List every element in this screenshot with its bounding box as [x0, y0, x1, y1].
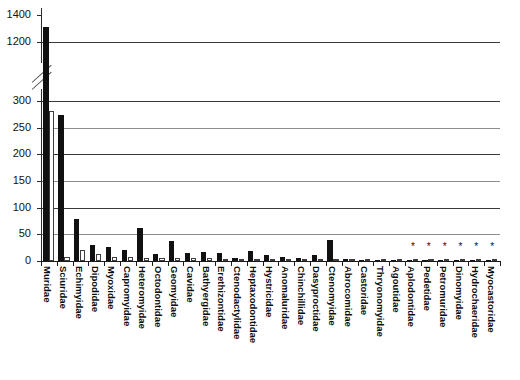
bar-group — [215, 0, 231, 262]
bar-group — [120, 0, 136, 262]
x-axis-category-label: Heteromyidae — [138, 266, 148, 329]
bar-open — [207, 258, 212, 261]
bar-filled — [422, 260, 427, 261]
x-axis-category-label: Heptaxodontidae — [249, 266, 259, 343]
bar-group — [263, 0, 279, 262]
bar-filled — [280, 257, 285, 261]
x-axis-category-label: Erethizontidae — [217, 266, 227, 331]
x-axis-category-label: Chinchillidae — [296, 266, 306, 325]
bar-filled — [312, 255, 317, 261]
x-axis-category-label: Ctenomyidae — [328, 266, 338, 326]
y-axis-tick-label: 0 — [0, 255, 36, 266]
bar-group — [468, 0, 484, 262]
x-axis-category-label: Myocastoridae — [486, 266, 496, 333]
bar-filled — [122, 250, 127, 261]
bar-open — [397, 259, 402, 261]
bar-group — [73, 0, 89, 262]
bar-open — [444, 259, 449, 261]
y-axis-tick-label: 1200 — [0, 36, 36, 47]
bar-group — [453, 0, 469, 262]
bars-layer: ****** — [41, 0, 501, 262]
bar-group — [152, 0, 168, 262]
bar-group — [278, 0, 294, 262]
x-axis-category-label: Hystricidae — [264, 266, 274, 317]
bar-open — [49, 111, 54, 261]
y-axis-tick-labels: 05010015020025030012001400 — [0, 0, 36, 280]
bar-chart: 05010015020025030012001400 ****** Murida… — [0, 0, 520, 380]
bar-open — [128, 257, 133, 261]
x-axis-category-label: Agoutidae — [391, 266, 401, 312]
x-axis-category-label: Muridae — [43, 266, 53, 302]
x-axis-category-label: Pedetidae — [423, 266, 433, 311]
bar-open — [270, 259, 275, 261]
bar-open — [365, 259, 370, 261]
x-axis-category-label: Myoxidae — [106, 266, 116, 309]
bar-open — [159, 258, 164, 261]
bar-filled — [185, 253, 190, 261]
bar-group — [231, 0, 247, 262]
bar-open — [80, 250, 85, 261]
bar-group — [358, 0, 374, 262]
bar-filled — [407, 260, 412, 261]
bar-group — [484, 0, 500, 262]
bar-group — [88, 0, 104, 262]
bar-group — [342, 0, 358, 262]
x-axis-category-label: Dipodidae — [90, 266, 100, 312]
x-axis-category-label: Sciuridae — [59, 266, 69, 309]
x-axis-category-label: Anomaluridae — [280, 266, 290, 329]
bar-filled — [217, 253, 222, 261]
asterisk-annotation: * — [453, 242, 469, 252]
bar-group — [326, 0, 342, 262]
bar-filled — [58, 115, 63, 261]
bar-group — [41, 0, 57, 262]
bar-open — [191, 258, 196, 261]
bar-open — [349, 259, 354, 261]
bar-open — [286, 259, 291, 261]
bar-filled — [327, 240, 332, 261]
bar-open — [144, 258, 149, 261]
x-axis-category-label: Petromuridae — [439, 266, 449, 327]
x-axis-category-label: Castoridae — [359, 266, 369, 315]
bar-filled — [232, 258, 237, 261]
y-axis-tick-label: 50 — [0, 228, 36, 239]
bar-group — [57, 0, 73, 262]
bar-group — [294, 0, 310, 262]
y-axis-tick-label: 1400 — [0, 9, 36, 20]
x-axis-category-label: Bathyergidae — [201, 266, 211, 326]
x-axis-category-label: Capromyidae — [122, 266, 132, 326]
x-axis-category-label: Aplodontidae — [407, 266, 417, 327]
bar-group — [104, 0, 120, 262]
bar-open — [476, 259, 481, 261]
bar-open — [175, 258, 180, 261]
bar-filled — [169, 241, 174, 261]
bar-open — [460, 259, 465, 261]
y-axis-tick-label: 150 — [0, 175, 36, 186]
bar-open — [318, 259, 323, 261]
bar-open — [96, 254, 101, 261]
bar-filled — [391, 260, 396, 261]
bar-filled — [359, 260, 364, 261]
bar-group — [373, 0, 389, 262]
bar-group — [405, 0, 421, 262]
bar-filled — [106, 247, 111, 261]
bar-group — [199, 0, 215, 262]
bar-filled — [201, 252, 206, 261]
x-axis-category-label: Cavidae — [185, 266, 195, 302]
x-axis-category-labels: MuridaeSciuridaeEchimyidaeDipodidaeMyoxi… — [41, 266, 501, 380]
asterisk-annotation: * — [437, 242, 453, 252]
asterisk-annotation: * — [484, 242, 500, 252]
bar-open — [333, 259, 338, 261]
bar-group — [310, 0, 326, 262]
bar-group — [389, 0, 405, 262]
bar-open — [302, 259, 307, 261]
bar-group — [247, 0, 263, 262]
bar-filled — [137, 228, 142, 261]
x-axis-category-label: Octodontidae — [154, 266, 164, 327]
x-axis-category-label: Dasyproctidae — [312, 266, 322, 331]
bar-filled — [90, 245, 95, 261]
bar-filled — [454, 260, 459, 261]
bar-open — [64, 257, 69, 261]
y-axis-tick-label: 100 — [0, 202, 36, 213]
bar-filled — [43, 27, 49, 261]
bar-group — [421, 0, 437, 262]
